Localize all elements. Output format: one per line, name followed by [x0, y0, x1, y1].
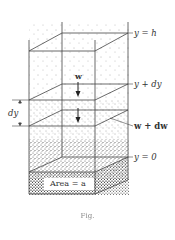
label-weight-w: w [75, 72, 82, 80]
label-area: Area = a [50, 180, 86, 188]
stipple-fill [29, 24, 129, 195]
label-w-plus-dw: w + dw [134, 122, 168, 131]
label-dy: dy [8, 109, 18, 118]
label-y-plus-dy: y + dy [134, 80, 162, 89]
label-y-equals-0: y = 0 [134, 153, 157, 162]
figure-caption: Fig. [0, 212, 175, 220]
label-y-equals-h: y = h [134, 29, 157, 38]
